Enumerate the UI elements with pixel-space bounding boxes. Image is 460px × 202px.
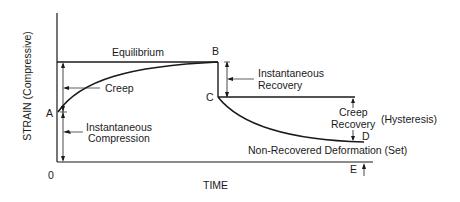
- non-recovered-label: Non-Recovered Deformation (Set): [248, 145, 407, 156]
- point-e-label: E: [350, 164, 357, 175]
- creep-recovery-label-1: Creep: [339, 107, 368, 118]
- inst-compression-label-2: Compression: [88, 133, 150, 144]
- creep-curve: [58, 62, 218, 112]
- point-a-label: A: [46, 108, 53, 119]
- creep-label: Creep: [105, 83, 134, 94]
- x-axis-label: TIME: [203, 180, 228, 191]
- creep-recovery-label-2: Recovery: [331, 119, 375, 130]
- point-b-label: B: [212, 46, 219, 57]
- point-d-label: D: [362, 131, 370, 142]
- strain-time-diagram: [0, 0, 460, 202]
- inst-recovery-label-1: Instantaneous: [258, 68, 324, 79]
- origin-label: 0: [48, 170, 54, 181]
- hysteresis-label: (Hysteresis): [381, 114, 437, 125]
- equilibrium-label: Equilibrium: [112, 47, 164, 58]
- y-axis-label: STRAIN (Compressive): [21, 31, 33, 141]
- inst-recovery-label-2: Recovery: [258, 80, 302, 91]
- point-c-label: C: [206, 92, 214, 103]
